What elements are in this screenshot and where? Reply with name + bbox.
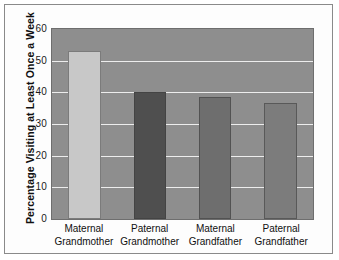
y-axis-tick-labels: 0102030405060: [5, 28, 47, 218]
x-tick-label: PaternalGrandmother: [117, 221, 183, 255]
x-axis-tick-labels: MaternalGrandmotherPaternalGrandmotherMa…: [51, 221, 314, 255]
y-tick-label: 40: [7, 86, 47, 97]
bar: [199, 97, 232, 219]
x-tick-label-line: Grandmother: [117, 235, 183, 248]
bar: [134, 92, 167, 219]
y-tick-label: 20: [7, 149, 47, 160]
x-tick-label-line: Grandfather: [248, 235, 314, 248]
chart-figure: Percentage Visiting at Least Once a Week…: [4, 4, 333, 254]
x-tick-label: PaternalGrandfather: [248, 221, 314, 255]
plot-area: [51, 28, 314, 220]
y-tick-label: 10: [7, 181, 47, 192]
x-tick-label-line: Maternal: [183, 222, 249, 235]
bar: [68, 51, 101, 219]
x-tick-label-line: Grandmother: [51, 235, 117, 248]
x-tick-label-line: Grandfather: [183, 235, 249, 248]
x-tick-label-line: Maternal: [51, 222, 117, 235]
x-tick-label-line: Paternal: [117, 222, 183, 235]
bar: [264, 103, 297, 219]
x-tick-label: MaternalGrandmother: [51, 221, 117, 255]
y-tick-label: 60: [7, 23, 47, 34]
x-tick-label: MaternalGrandfather: [183, 221, 249, 255]
y-tick-label: 50: [7, 54, 47, 65]
y-tick-label: 0: [7, 213, 47, 224]
x-tick-label-line: Paternal: [248, 222, 314, 235]
y-tick-label: 30: [7, 118, 47, 129]
